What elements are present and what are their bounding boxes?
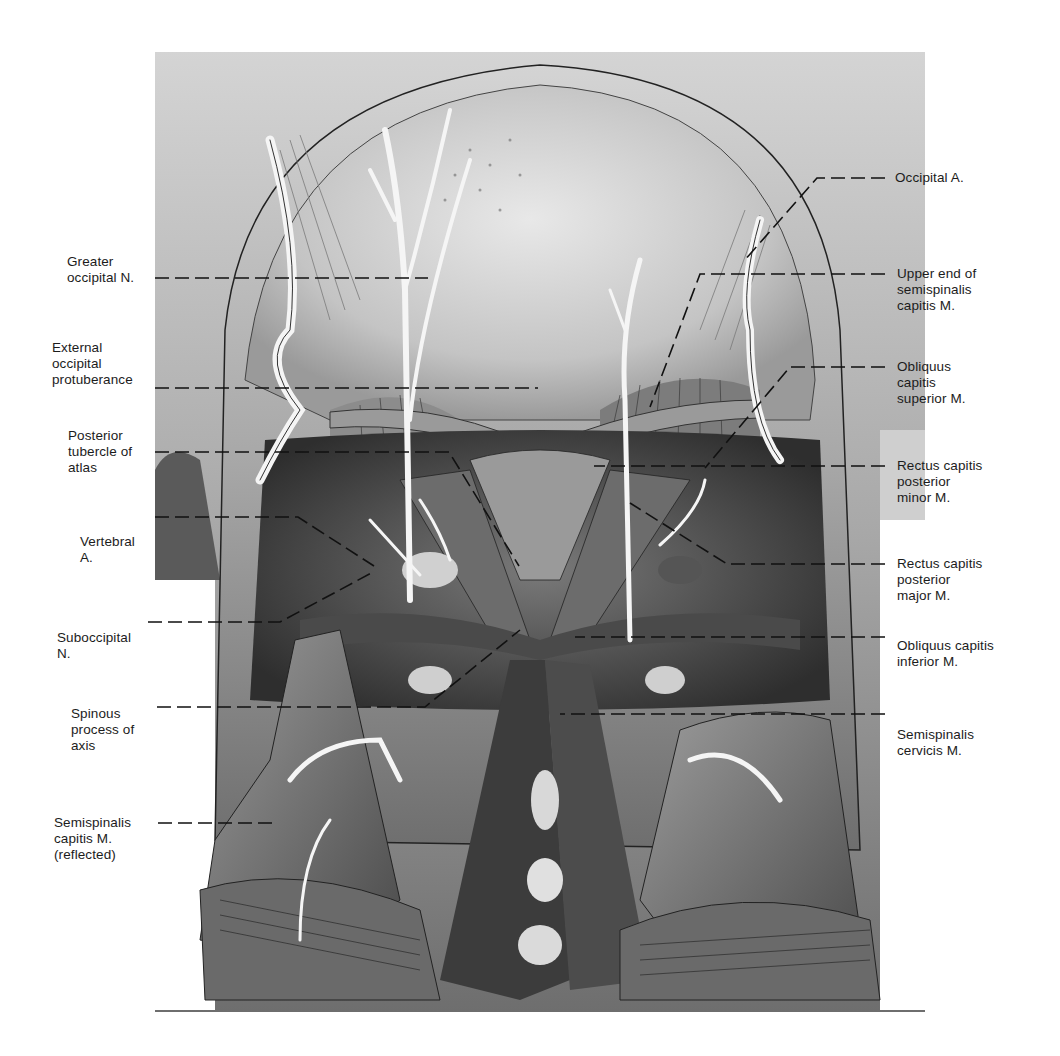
label-occipital-a: Occipital A.: [895, 170, 964, 186]
label-obliquus-capitis-inferior: Obliquus capitis inferior M.: [897, 638, 994, 670]
label-semispinalis-capitis-reflected: Semispinalis capitis M. (reflected): [54, 815, 131, 863]
anatomy-figure: Greater occipital N. External occipital …: [0, 0, 1060, 1056]
suboccipital-illustration: [0, 0, 1060, 1056]
label-rectus-capitis-posterior-major: Rectus capitis posterior major M.: [897, 556, 982, 604]
label-rectus-capitis-posterior-minor: Rectus capitis posterior minor M.: [897, 458, 982, 506]
label-obliquus-capitis-superior: Obliquus capitis superior M.: [897, 359, 966, 407]
label-suboccipital-n: Suboccipital N.: [57, 630, 131, 662]
label-posterior-tubercle-of-atlas: Posterior tubercle of atlas: [68, 428, 132, 476]
label-vertebral-a: Vertebral A.: [80, 534, 135, 566]
label-greater-occipital-n: Greater occipital N.: [67, 254, 134, 286]
label-spinous-process-of-axis: Spinous process of axis: [71, 706, 134, 754]
label-upper-end-semispinalis-capitis: Upper end of semispinalis capitis M.: [897, 266, 976, 314]
label-semispinalis-cervicis: Semispinalis cervicis M.: [897, 727, 974, 759]
figure-caption-clipped: [370, 1046, 700, 1056]
label-external-occipital-protuberance: External occipital protuberance: [52, 340, 133, 388]
